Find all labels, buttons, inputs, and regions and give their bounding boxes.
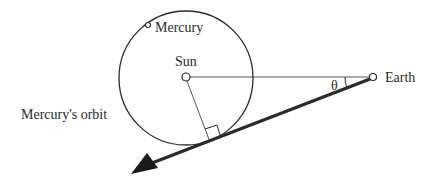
sun-tangent-radius: [187, 81, 210, 142]
earth-marker: [370, 74, 377, 81]
earth-label: Earth: [385, 70, 415, 85]
elongation-diagram: Mercury Sun Earth Mercury's orbit θ: [0, 0, 438, 179]
theta-arc: [345, 77, 347, 88]
theta-label: θ: [331, 78, 338, 93]
arrowhead-icon: [131, 153, 158, 174]
sun-label: Sun: [175, 54, 197, 69]
orbit-label: Mercury's orbit: [21, 107, 107, 122]
mercury-marker: [146, 23, 151, 28]
mercury-label: Mercury: [155, 20, 203, 35]
sun-marker: [182, 73, 190, 81]
